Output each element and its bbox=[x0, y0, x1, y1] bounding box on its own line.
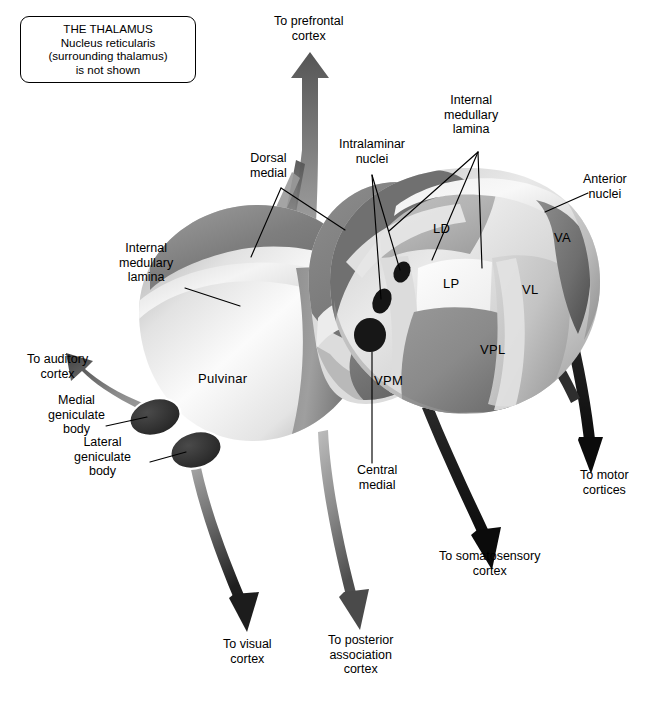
legend-line-2: Nucleus reticularis bbox=[25, 36, 191, 50]
nucleus-label-pulvinar: Pulvinar bbox=[198, 372, 247, 387]
thalamus-diagram: THE THALAMUS Nucleus reticularis (surrou… bbox=[0, 0, 651, 708]
callout-label-intralaminar: Intralaminar nuclei bbox=[339, 137, 405, 166]
arrow-label-to-somatosensory-cortex: To somatosensory cortex bbox=[439, 549, 540, 578]
callout-label-central-medial: Central medial bbox=[357, 463, 397, 492]
callout-label-medial-geniculate: Medial geniculate body bbox=[48, 393, 105, 437]
arrow-to-posterior-association-cortex bbox=[318, 430, 369, 630]
arrow-to-somatosensory-cortex bbox=[422, 404, 501, 570]
arrow-label-to-motor-cortices: To motor cortices bbox=[580, 468, 629, 497]
nucleus-label-vpm: VPM bbox=[374, 374, 403, 389]
nucleus-label-vpl: VPL bbox=[480, 343, 505, 358]
nucleus-label-lp: LP bbox=[443, 277, 460, 292]
diagram-canvas bbox=[0, 0, 651, 708]
callout-label-internal-med-lam-l: Internal medullary lamina bbox=[119, 241, 173, 285]
callout-label-lateral-geniculate: Lateral geniculate body bbox=[74, 435, 131, 479]
arrow-to-visual-cortex bbox=[188, 452, 259, 632]
arrow-label-to-auditory-cortex: To auditory cortex bbox=[27, 352, 88, 381]
legend-line-3: (surrounding thalamus) bbox=[25, 49, 191, 63]
nucleus-label-va: VA bbox=[554, 231, 571, 246]
arrow-label-to-prefrontal-cortex: To prefrontal cortex bbox=[274, 14, 343, 43]
callout-label-anterior-nuclei: Anterior nuclei bbox=[583, 172, 627, 201]
legend-line-1: THE THALAMUS bbox=[25, 22, 191, 36]
central-medial-nucleus bbox=[354, 318, 386, 352]
legend-box: THE THALAMUS Nucleus reticularis (surrou… bbox=[20, 16, 196, 83]
nucleus-label-ld: LD bbox=[433, 222, 450, 237]
nucleus-label-vl: VL bbox=[522, 283, 539, 298]
callout-label-internal-med-lam-r: Internal medullary lamina bbox=[444, 93, 498, 137]
callout-label-dorsal-medial: Dorsal medial bbox=[250, 151, 287, 180]
arrow-label-to-posterior-association-cortex: To posterior association cortex bbox=[328, 633, 393, 677]
legend-line-4: is not shown bbox=[25, 63, 191, 77]
arrow-label-to-visual-cortex: To visual cortex bbox=[223, 637, 272, 666]
